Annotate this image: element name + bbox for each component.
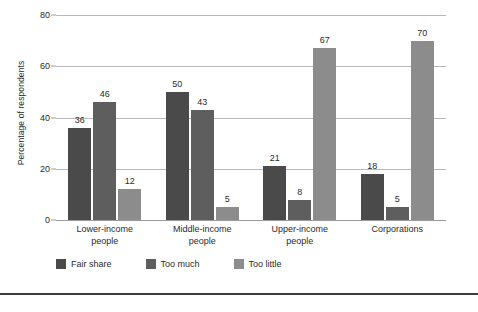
y-tick-label-40: 40 <box>40 113 50 123</box>
bar-group: 50435 <box>154 15 252 220</box>
bar[interactable] <box>288 200 311 221</box>
bar-value-label: 8 <box>297 188 302 197</box>
bar-value-label: 43 <box>197 98 207 107</box>
x-axis-category-label: Lower-incomepeople <box>56 224 154 247</box>
bar[interactable] <box>93 102 116 220</box>
x-axis-category-label-line: Lower-income <box>56 224 154 236</box>
x-axis-category-labels: Lower-incomepeopleMiddle-incomepeopleUpp… <box>56 224 446 247</box>
y-tick-label-60: 60 <box>40 61 50 71</box>
bar-chart-figure: Percentage of respondents 020406080 3646… <box>0 0 478 312</box>
plot-area: 020406080 364612504352186718570 <box>56 15 446 220</box>
bar-item[interactable]: 50 <box>166 15 189 220</box>
bar-item[interactable]: 43 <box>191 15 214 220</box>
bar-groups: 364612504352186718570 <box>56 15 446 220</box>
bar-group: 18570 <box>349 15 447 220</box>
x-axis-category-label: Middle-incomepeople <box>154 224 252 247</box>
legend-label: Too much <box>161 259 200 269</box>
x-axis-category-label-line: Upper-income <box>251 224 349 236</box>
bar-item[interactable]: 70 <box>411 15 434 220</box>
bar-value-label: 50 <box>172 80 182 89</box>
bar-item[interactable]: 36 <box>68 15 91 220</box>
y-tick-label-0: 0 <box>45 215 50 225</box>
y-tick-label-80: 80 <box>40 10 50 20</box>
bar-group-bars: 18570 <box>349 15 447 220</box>
x-axis-category-label-line: Corporations <box>349 224 447 236</box>
x-axis-category-label-line: people <box>251 236 349 248</box>
bar[interactable] <box>191 110 214 220</box>
gridline-0 <box>56 220 446 221</box>
bar[interactable] <box>361 174 384 220</box>
bar-value-label: 36 <box>75 116 85 125</box>
bar[interactable] <box>313 48 336 220</box>
bottom-divider <box>0 293 478 295</box>
bar-item[interactable]: 12 <box>118 15 141 220</box>
bar[interactable] <box>166 92 189 220</box>
bar-item[interactable]: 21 <box>263 15 286 220</box>
bar-group-bars: 50435 <box>154 15 252 220</box>
x-axis-category-label: Upper-incomepeople <box>251 224 349 247</box>
x-axis-category-label-line: Middle-income <box>154 224 252 236</box>
legend-swatch-icon <box>234 259 244 269</box>
bar-value-label: 18 <box>367 162 377 171</box>
legend-item[interactable]: Too little <box>234 259 282 269</box>
bar-item[interactable]: 67 <box>313 15 336 220</box>
legend-item[interactable]: Too much <box>146 259 200 269</box>
bar-value-label: 5 <box>395 195 400 204</box>
bar-value-label: 12 <box>125 177 135 186</box>
bar-value-label: 70 <box>417 29 427 38</box>
bar[interactable] <box>68 128 91 220</box>
y-tick-label-20: 20 <box>40 164 50 174</box>
bar-group: 21867 <box>251 15 349 220</box>
bar-value-label: 21 <box>270 154 280 163</box>
bar-group-bars: 21867 <box>251 15 349 220</box>
bar-value-label: 5 <box>225 195 230 204</box>
legend-label: Too little <box>249 259 282 269</box>
x-axis-category-label-line: people <box>154 236 252 248</box>
bar[interactable] <box>216 207 239 220</box>
bar-item[interactable]: 46 <box>93 15 116 220</box>
bar-value-label: 46 <box>100 90 110 99</box>
bar-value-label: 67 <box>320 36 330 45</box>
legend-label: Fair share <box>71 259 112 269</box>
bar[interactable] <box>386 207 409 220</box>
bar-group: 364612 <box>56 15 154 220</box>
bar-group-bars: 364612 <box>56 15 154 220</box>
legend-item[interactable]: Fair share <box>56 259 112 269</box>
bar[interactable] <box>118 189 141 220</box>
bar-item[interactable]: 5 <box>216 15 239 220</box>
bar-item[interactable]: 18 <box>361 15 384 220</box>
bar-item[interactable]: 5 <box>386 15 409 220</box>
bar[interactable] <box>411 41 434 220</box>
bar-item[interactable]: 8 <box>288 15 311 220</box>
bar[interactable] <box>263 166 286 220</box>
x-axis-category-label: Corporations <box>349 224 447 247</box>
legend-swatch-icon <box>56 259 66 269</box>
x-axis-category-label-line: people <box>56 236 154 248</box>
legend-swatch-icon <box>146 259 156 269</box>
y-axis-title: Percentage of respondents <box>16 28 26 198</box>
chart-legend: Fair shareToo muchToo little <box>56 259 446 269</box>
